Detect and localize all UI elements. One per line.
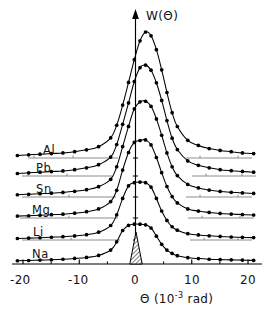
x-axis-unit-close: rad) [183,292,213,306]
series-label-mg: Mg [32,205,50,217]
x-tick-label-minus20: -20 [10,274,31,286]
x-tick-label-zero: 0 [131,274,139,286]
x-tick-label-20: 20 [240,274,256,286]
series-label-pb: Pb [36,163,51,175]
x-axis-unit-open: (10 [154,292,175,306]
series-label-sn: Sn [36,184,52,196]
figure-angular-distribution: Al Pb Sn Mg Li Na W(Θ) -20 -10 0 10 20 Θ… [0,0,269,312]
y-axis-title: W(Θ) [146,10,178,22]
x-axis-title: Θ (10-3 rad) [140,292,213,305]
x-axis-symbol: Θ [140,292,150,306]
x-tick-label-minus10: -10 [68,274,89,286]
x-tick-label-10: 10 [184,274,200,286]
series-label-li: Li [33,227,44,239]
series-label-na: Na [32,249,49,261]
instrument-resolution-peak [130,232,142,264]
chart-canvas [0,0,269,312]
series-label-al: Al [43,145,55,157]
